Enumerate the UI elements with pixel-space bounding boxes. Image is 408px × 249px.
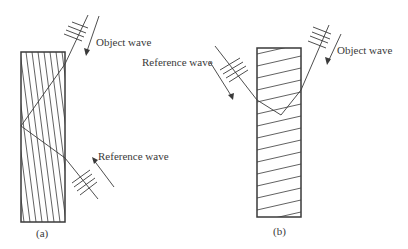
panel-b-fringes (257, 44, 301, 222)
panel-b-reference-ray (215, 46, 281, 115)
panel-a-caption: (a) (36, 228, 48, 239)
panel-b-reference-wave-label: Reference wave (142, 57, 213, 68)
panel-b-reference-arrow (210, 62, 232, 97)
panel-a-object-wave-label: Object wave (96, 37, 151, 48)
panel-a-fringes (2, 52, 84, 222)
panel-a-reference-ray (21, 126, 98, 199)
panel-a-reference-wave-label: Reference wave (98, 151, 169, 162)
panel-b-caption: (b) (273, 226, 286, 237)
panel-a-object-ray (21, 15, 88, 126)
arrowhead-icon (84, 48, 90, 56)
arrowhead-icon (228, 93, 234, 100)
panel-b-object-wave-label: Object wave (337, 45, 392, 56)
panel-a-object-wavefronts (64, 22, 88, 41)
panel-b (210, 25, 341, 222)
panel-a-object-arrow (86, 16, 99, 54)
panel-b-object-ray (281, 25, 329, 115)
panel-b-object-wavefronts (308, 27, 331, 48)
hologram-diagram (0, 0, 408, 249)
